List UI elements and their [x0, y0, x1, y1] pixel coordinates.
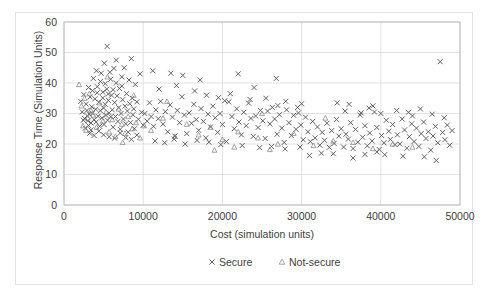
data-point-secure: [445, 123, 450, 128]
x-tick-label: 20000: [208, 210, 237, 222]
data-point-secure: [382, 152, 387, 157]
data-point-secure: [327, 145, 332, 150]
data-point-secure: [351, 156, 356, 161]
data-point-secure: [348, 120, 353, 125]
x-tick-label: 0: [61, 210, 67, 222]
y-tick-label: 60: [45, 16, 57, 28]
data-point-secure: [341, 145, 346, 150]
y-tick-label: 0: [51, 199, 57, 211]
data-point-secure: [229, 114, 234, 119]
data-point-not-secure: [105, 74, 110, 79]
chart-container: 0102030405060 01000020000300004000050000…: [0, 0, 490, 301]
data-point-secure: [284, 107, 289, 112]
data-points-group: [77, 44, 455, 163]
y-tick-label: 20: [45, 138, 57, 150]
data-point-secure: [418, 106, 423, 111]
data-point-secure: [339, 126, 344, 131]
data-point-secure: [343, 132, 348, 137]
data-point-secure: [239, 132, 244, 137]
data-point-secure: [283, 99, 288, 104]
scatter-chart: 0102030405060 01000020000300004000050000…: [0, 0, 490, 301]
data-point-secure: [370, 138, 375, 143]
data-point-secure: [115, 119, 120, 124]
legend-label-secure: Secure: [219, 256, 252, 268]
data-point-secure: [423, 136, 428, 141]
data-point-secure: [232, 126, 237, 131]
data-point-secure: [226, 99, 231, 104]
x-marker-icon: [209, 259, 214, 264]
data-point-secure: [360, 135, 365, 140]
data-point-secure: [394, 108, 399, 113]
data-point-secure: [317, 143, 322, 148]
data-point-secure: [402, 127, 407, 132]
data-point-secure: [244, 123, 249, 128]
data-point-secure: [379, 133, 384, 138]
x-tick-label: 40000: [366, 210, 395, 222]
data-point-secure: [192, 88, 197, 93]
data-point-secure: [388, 137, 393, 142]
data-point-not-secure: [116, 106, 121, 111]
data-point-secure: [298, 123, 303, 128]
data-point-secure: [263, 96, 268, 101]
data-point-secure: [430, 112, 435, 117]
data-point-secure: [277, 112, 282, 117]
data-point-secure: [161, 122, 166, 127]
data-point-secure: [198, 77, 203, 82]
data-point-secure: [119, 84, 124, 89]
data-point-secure: [421, 120, 426, 125]
data-point-secure: [175, 108, 180, 113]
data-point-secure: [346, 137, 351, 142]
x-axis-title: Cost (simulation units): [210, 228, 314, 240]
data-point-secure: [248, 116, 253, 121]
data-point-secure: [111, 125, 116, 130]
data-point-not-secure: [236, 129, 241, 134]
data-point-secure: [351, 146, 356, 151]
data-point-secure: [315, 124, 320, 129]
data-point-secure: [295, 105, 300, 110]
series-secure: [78, 44, 454, 163]
data-point-secure: [96, 114, 101, 119]
data-point-secure: [191, 102, 196, 107]
data-point-secure: [303, 115, 308, 120]
data-point-not-secure: [370, 146, 375, 151]
y-tick-label: 30: [45, 107, 57, 119]
data-point-secure: [450, 128, 455, 133]
data-point-secure: [177, 120, 182, 125]
data-point-secure: [153, 107, 158, 112]
data-point-secure: [274, 76, 279, 81]
x-tick-label: 50000: [445, 210, 474, 222]
data-point-secure: [279, 126, 284, 131]
data-point-secure: [174, 83, 179, 88]
data-point-secure: [147, 100, 152, 105]
data-point-secure: [125, 109, 130, 114]
data-point-secure: [134, 133, 139, 138]
data-point-secure: [362, 123, 367, 128]
data-point-secure: [390, 122, 395, 127]
data-point-not-secure: [232, 145, 237, 150]
data-point-secure: [102, 122, 107, 127]
data-point-secure: [258, 108, 263, 113]
data-point-secure: [180, 73, 185, 78]
data-point-secure: [310, 119, 315, 124]
data-point-secure: [86, 85, 91, 90]
data-point-not-secure: [410, 145, 415, 150]
x-tick-label: 30000: [287, 210, 316, 222]
data-point-secure: [115, 93, 120, 98]
data-point-secure: [322, 138, 327, 143]
data-point-secure: [272, 116, 277, 121]
data-point-not-secure: [134, 120, 139, 125]
data-point-secure: [145, 119, 150, 124]
data-point-secure: [414, 126, 419, 131]
data-point-secure: [434, 158, 439, 163]
data-point-secure: [440, 130, 445, 135]
data-point-secure: [138, 71, 143, 76]
data-point-secure: [101, 132, 106, 137]
data-point-secure: [126, 77, 131, 82]
data-point-secure: [395, 132, 400, 137]
data-point-secure: [158, 99, 163, 104]
data-point-secure: [442, 115, 447, 120]
data-point-secure: [412, 139, 417, 144]
data-point-secure: [81, 92, 86, 97]
data-point-not-secure: [82, 96, 87, 101]
data-point-secure: [435, 140, 440, 145]
